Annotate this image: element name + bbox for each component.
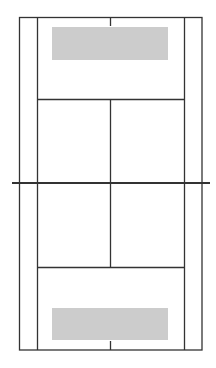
- tennis-court-diagram: [0, 0, 216, 368]
- top-target-zone: [52, 27, 168, 60]
- bottom-target-zone: [52, 308, 168, 340]
